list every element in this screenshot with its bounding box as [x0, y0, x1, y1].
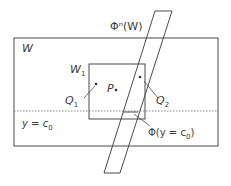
point-Q1: [95, 83, 98, 86]
diagram-canvas: Φⁿ(W) W W1 P Q1 Q2 y = c0 Φ(y = c0): [0, 0, 231, 186]
label-Q1: Q1: [65, 94, 78, 109]
label-W1: W1: [70, 63, 85, 78]
label-phi-n-W: Φⁿ(W): [110, 20, 143, 33]
point-Q2: [139, 76, 142, 79]
label-y-eq-c0: y = c0: [21, 118, 53, 132]
label-Q2: Q2: [156, 94, 169, 109]
label-P: P: [107, 82, 114, 95]
region-W: [14, 38, 218, 146]
label-W: W: [22, 42, 34, 55]
point-P: [115, 89, 118, 92]
label-phi-y-eq-c0: Φ(y = c0): [148, 127, 194, 141]
leader-phi-y-c0: [134, 114, 150, 126]
region-phi-n-W: [104, 11, 172, 173]
